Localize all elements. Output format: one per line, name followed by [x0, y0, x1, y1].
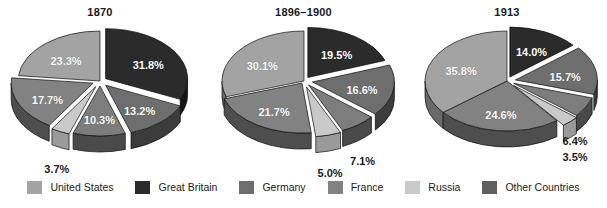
legend-item-great-britain[interactable]: Great Britain — [135, 181, 217, 194]
legend-item-russia[interactable]: Russia — [405, 181, 460, 194]
legend-swatch-united-states — [27, 181, 42, 194]
legend-swatch-russia — [405, 181, 420, 194]
legend-swatch-other-countries — [482, 181, 497, 194]
pie-svg — [204, 19, 404, 167]
legend-label: Russia — [428, 181, 460, 193]
chart-title: 1896–1900 — [275, 6, 332, 18]
pie-1913: 14.0%15.7%6.4%3.5%24.6%35.8% — [407, 19, 607, 167]
legend-swatch-great-britain — [135, 181, 150, 194]
legend: United StatesGreat BritainGermanyFranceR… — [0, 172, 607, 202]
pie-1896-1900: 19.5%16.6%7.1%5.0%21.7%30.1% — [204, 19, 404, 167]
pie-tops — [11, 29, 187, 136]
pie-slice-united-states[interactable] — [18, 31, 100, 81]
pie-svg — [407, 19, 607, 167]
legend-label: United States — [50, 181, 113, 193]
pie-1870: 31.8%13.2%10.3%3.7%17.7%23.3% — [0, 19, 200, 167]
chart-1913: 1913 14.0%15.7%6.4%3.5%24.6%35.8% — [407, 0, 607, 170]
legend-swatch-france — [328, 181, 343, 194]
pie-svg — [0, 19, 200, 167]
pie-tops — [425, 27, 597, 131]
legend-label: Germany — [262, 181, 305, 193]
chart-title: 1913 — [494, 6, 519, 18]
legend-item-germany[interactable]: Germany — [239, 181, 305, 194]
legend-label: Great Britain — [158, 181, 217, 193]
legend-item-france[interactable]: France — [328, 181, 384, 194]
legend-label: Other Countries — [505, 181, 579, 193]
legend-swatch-germany — [239, 181, 254, 194]
charts-row: 1870 31.8%13.2%10.3%3.7%17.7%23.3% 1896–… — [0, 0, 607, 170]
pie-chart-figure: 1870 31.8%13.2%10.3%3.7%17.7%23.3% 1896–… — [0, 0, 607, 208]
chart-1896-1900: 1896–1900 19.5%16.6%7.1%5.0%21.7%30.1% — [204, 0, 404, 170]
legend-item-other-countries[interactable]: Other Countries — [482, 181, 579, 194]
legend-item-united-states[interactable]: United States — [27, 181, 113, 194]
chart-1870: 1870 31.8%13.2%10.3%3.7%17.7%23.3% — [0, 0, 200, 170]
legend-label: France — [351, 181, 384, 193]
chart-title: 1870 — [87, 6, 112, 18]
